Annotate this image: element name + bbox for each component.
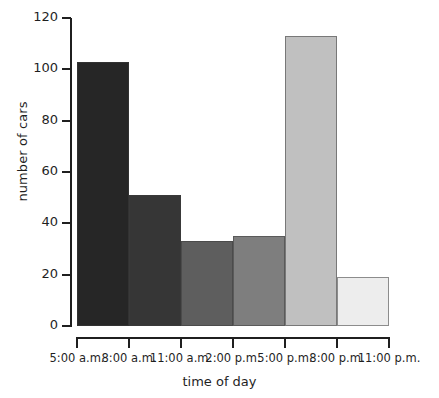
y-axis-tick-label: 40 [14,214,58,229]
bar-chart: number of cars 020406080100120 5:00 a.m.… [0,0,439,398]
x-axis-tick-label: 11:00 p.m. [346,351,432,365]
bar [129,195,181,326]
x-axis-tick [388,337,390,348]
y-axis-tick-label: 0 [14,317,58,332]
bar [337,277,389,326]
bar [233,236,285,326]
x-axis-tick [76,337,78,348]
x-axis-tick [128,337,130,348]
y-axis-tick-label: 80 [14,112,58,127]
bar [77,62,129,326]
y-axis-tick-label: 100 [14,60,58,75]
plot-area [70,18,392,326]
x-axis-tick [232,337,234,348]
bar [181,241,233,326]
y-axis-title: number of cars [15,82,30,222]
y-axis-tick-label: 60 [14,163,58,178]
x-axis-title: time of day [0,374,439,389]
x-axis-tick [180,337,182,348]
x-axis-tick [284,337,286,348]
y-axis-tick-label: 120 [14,9,58,24]
x-axis-tick [336,337,338,348]
y-axis-tick-label: 20 [14,266,58,281]
bar [285,36,337,326]
